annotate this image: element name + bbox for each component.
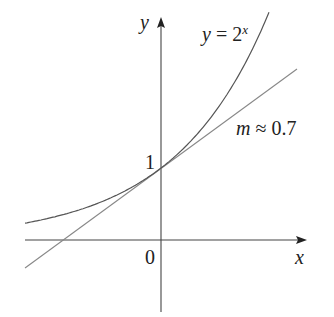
y-intercept-label: 1 — [145, 152, 155, 172]
curve-label: y = 2x — [202, 23, 248, 44]
graph-canvas — [0, 0, 334, 317]
tangent-slope-label: m ≈ 0.7 — [236, 118, 296, 138]
origin-label: 0 — [145, 247, 155, 267]
curve-label-exp: x — [242, 22, 248, 37]
y-axis-label: y — [140, 12, 149, 32]
slope-value: ≈ 0.7 — [250, 117, 296, 139]
curve-label-eq: = 2 — [211, 23, 242, 45]
x-axis-label: x — [295, 247, 304, 267]
curve-label-var: y — [202, 23, 211, 45]
slope-var: m — [236, 117, 250, 139]
